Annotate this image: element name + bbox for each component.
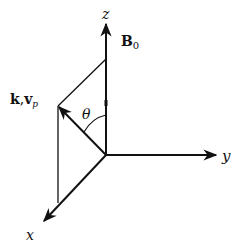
coordinate-diagram: z y x B0 k,vp θ — [0, 0, 243, 249]
x-axis-label: x — [26, 227, 34, 243]
z-axis-label: z — [101, 6, 110, 22]
k-vp-label: k,vp — [10, 91, 38, 109]
plane-top-edge — [58, 59, 106, 106]
b0-label: B0 — [121, 33, 139, 51]
theta-label: θ — [82, 106, 91, 122]
y-axis-label: y — [221, 147, 231, 165]
x-axis — [44, 155, 106, 221]
